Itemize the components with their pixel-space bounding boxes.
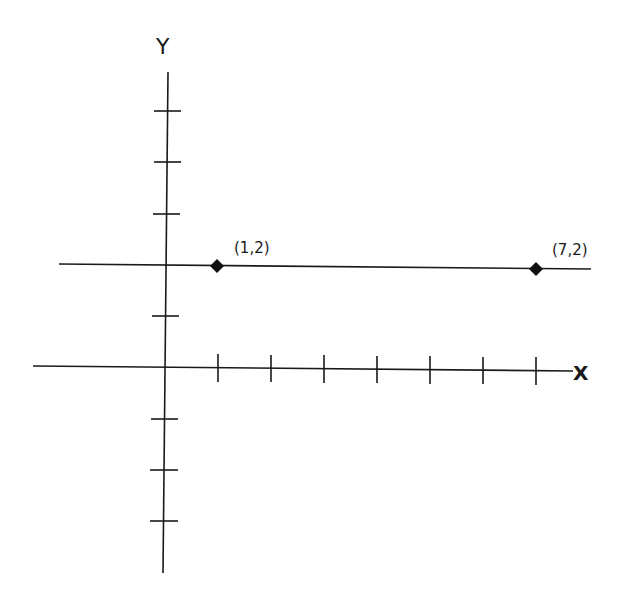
y-axis <box>163 72 168 573</box>
y-axis-label: Y <box>155 34 170 59</box>
diagram-canvas: Y X (1,2) (7,2) <box>0 0 625 604</box>
coordinate-plane-diagram: Y X (1,2) (7,2) <box>0 0 625 604</box>
x-axis-label: X <box>573 361 589 385</box>
x-axis <box>33 366 573 371</box>
point-1-2-marker <box>210 259 224 273</box>
line-y-equals-2 <box>59 264 591 269</box>
y-axis-ticks <box>150 111 181 521</box>
point-7-2-label: (7,2) <box>552 241 588 259</box>
point-1-2-label: (1,2) <box>234 239 270 257</box>
point-7-2-marker <box>529 262 543 276</box>
